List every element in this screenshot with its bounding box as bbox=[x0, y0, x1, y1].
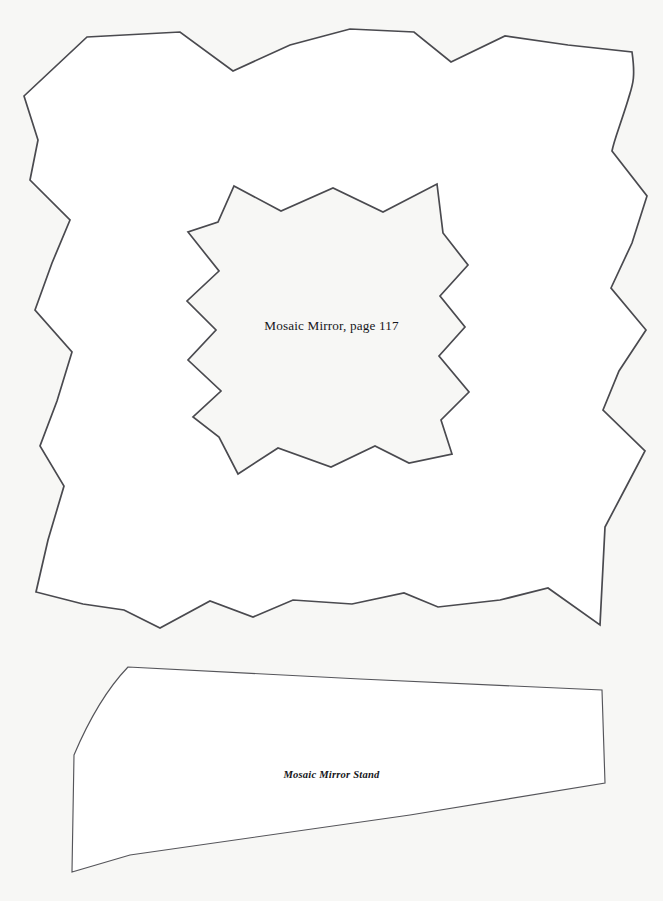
mosaic-mirror-label: Mosaic Mirror, page 117 bbox=[0, 318, 663, 334]
mosaic-mirror-stand-label: Mosaic Mirror Stand bbox=[0, 769, 663, 780]
pattern-sheet-page: Mosaic Mirror, page 117 Mosaic Mirror St… bbox=[0, 0, 663, 901]
pattern-shapes-canvas bbox=[0, 0, 663, 901]
